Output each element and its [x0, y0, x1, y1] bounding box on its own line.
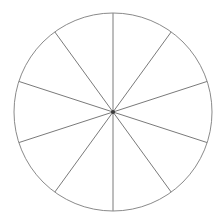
fraction-circle-figure [0, 0, 220, 223]
center-hub-dot [111, 110, 115, 114]
pie-chart-canvas [0, 0, 220, 223]
